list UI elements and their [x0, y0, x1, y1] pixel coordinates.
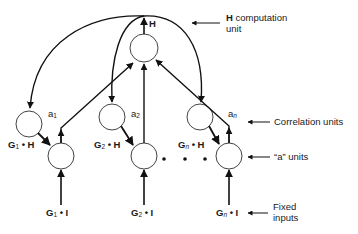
an-label: an	[228, 108, 237, 121]
a-unit-1	[48, 143, 74, 169]
g2-h-label: G2 • H	[94, 139, 120, 152]
a1-to-h-line	[61, 63, 133, 143]
ellipsis-dot	[183, 157, 187, 161]
g1-h-label: G1 • H	[8, 139, 34, 152]
ellipsis-dot	[162, 157, 166, 161]
a1-label: a1	[48, 108, 57, 121]
h-computation-unit-annotation: H computation unit	[226, 12, 287, 34]
ellipsis-dot	[203, 157, 207, 161]
fixed-inputs-annotation: Fixed inputs	[273, 201, 298, 223]
correlation-units-annotation: Correlation units	[274, 116, 343, 127]
a-units-annotation: “a” units	[274, 151, 308, 162]
h-feedback-arc-1	[30, 16, 144, 108]
a-unit-2	[131, 143, 157, 169]
an-to-h-line	[156, 60, 229, 143]
gn-i-label: Gn • I	[216, 207, 238, 220]
h-computation-unit	[130, 34, 158, 62]
a2-label: a2	[131, 108, 140, 121]
gn-h-label: Gn • H	[178, 139, 204, 152]
a-unit-n	[216, 143, 242, 169]
g1-i-label: G1 • I	[46, 207, 68, 220]
h-output-label: H	[149, 18, 156, 29]
g2-i-label: G2 • I	[131, 207, 153, 220]
